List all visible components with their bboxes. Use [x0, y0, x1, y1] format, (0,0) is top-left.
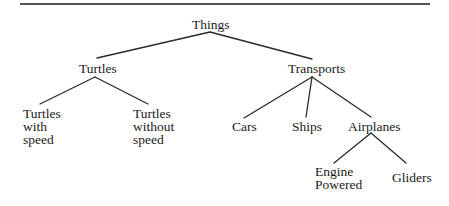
edge-things-turtles: [97, 32, 210, 58]
edge-transports-cars: [244, 77, 312, 118]
node-engine-powered: Engine Powered: [315, 165, 362, 191]
node-things: Things: [192, 18, 230, 31]
node-label: Transports: [288, 62, 345, 75]
node-cars: Cars: [232, 120, 257, 133]
node-turtles-with-speed: Turtles with speed: [23, 107, 61, 146]
node-gliders: Gliders: [392, 171, 432, 184]
node-ships: Ships: [292, 120, 322, 133]
node-turtles-without-speed: Turtles without speed: [133, 107, 174, 146]
edge-transports-ships: [306, 77, 312, 117]
edge-things-transports: [210, 32, 312, 59]
node-airplanes: Airplanes: [348, 120, 400, 133]
node-label: Things: [192, 18, 230, 31]
edge-airplanes-gliders: [371, 133, 406, 163]
node-label-line: speed: [133, 133, 174, 146]
edge-turtles-without-speed: [95, 77, 148, 104]
node-label: Gliders: [392, 171, 432, 184]
node-label-line: speed: [23, 133, 61, 146]
edge-airplanes-engine-powered: [334, 133, 371, 163]
node-label: Cars: [232, 120, 257, 133]
edge-transports-airplanes: [312, 77, 371, 117]
node-label: Turtles: [79, 62, 117, 75]
node-turtles: Turtles: [79, 62, 117, 75]
edge-turtles-with-speed: [40, 77, 95, 104]
class-hierarchy-tree: Things Turtles Transports Turtles with s…: [0, 0, 449, 206]
node-label-line: Powered: [315, 178, 362, 191]
node-transports: Transports: [288, 62, 345, 75]
node-label: Ships: [292, 120, 322, 133]
node-label: Airplanes: [348, 120, 400, 133]
